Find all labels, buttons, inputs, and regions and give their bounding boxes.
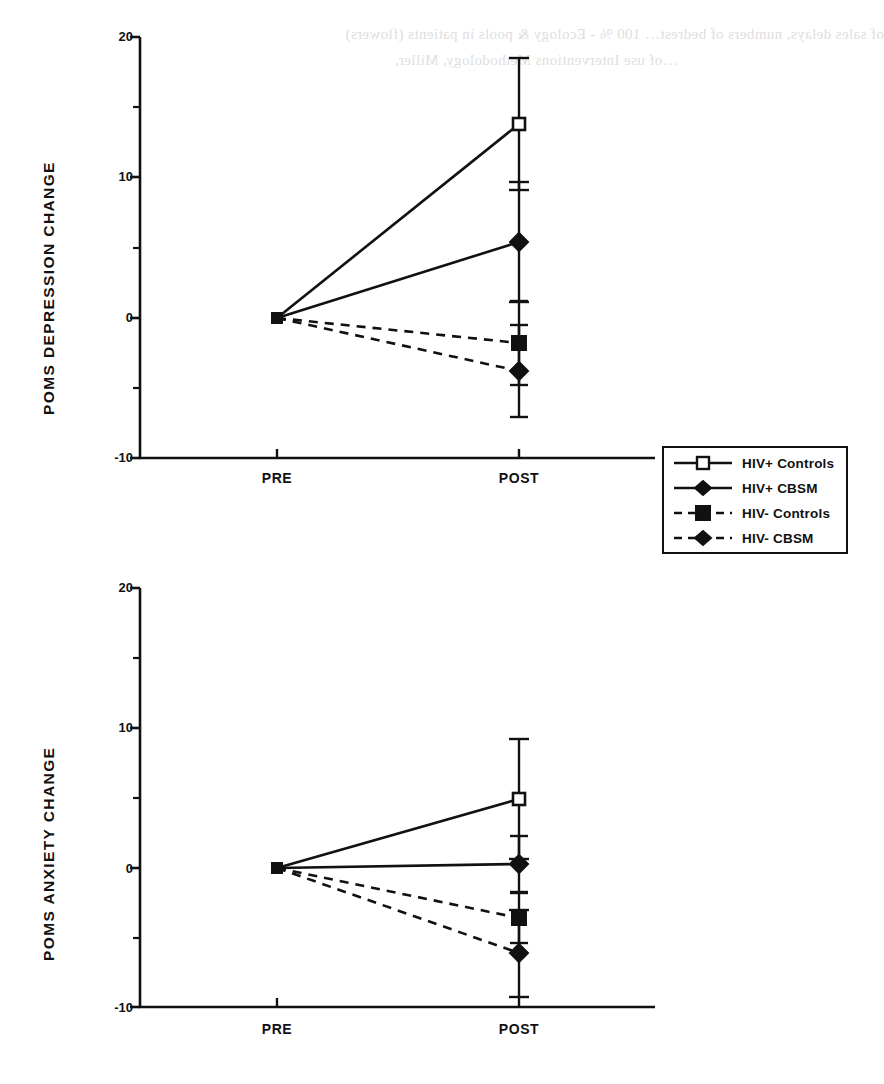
axis-lines-depression xyxy=(140,37,655,458)
legend-label-hiv-plus-cbsm: HIV+ CBSM xyxy=(742,481,818,496)
chart-panel-depression: POMS DEPRESSION CHANGE 20 10 0 -10 PRE P… xyxy=(0,0,700,520)
marker-pre-anxiety xyxy=(272,863,282,873)
legend-key-filled-square-dashed xyxy=(672,504,734,522)
legend-entry-hiv-minus-cbsm[interactable]: HIV- CBSM xyxy=(672,527,814,549)
series-line-anxiety-hiv-plus-controls xyxy=(277,799,519,868)
chart-panel-anxiety: POMS ANXIETY CHANGE 20 10 0 -10 PRE POST xyxy=(0,551,700,1084)
series-line-hiv-plus-controls xyxy=(277,124,519,318)
legend-entry-hiv-minus-controls[interactable]: HIV- Controls xyxy=(672,502,830,524)
marker-hiv-minus-controls-post-depression xyxy=(512,336,526,350)
x-ticks-depression xyxy=(277,449,519,458)
series-line-hiv-minus-controls xyxy=(277,318,519,343)
legend-label-hiv-minus-cbsm: HIV- CBSM xyxy=(742,531,814,546)
axis-lines-anxiety xyxy=(140,588,655,1007)
legend-key-filled-diamond-dashed xyxy=(672,529,734,547)
marker-hiv-minus-controls-post-anxiety xyxy=(512,911,526,925)
legend-entry-hiv-plus-cbsm[interactable]: HIV+ CBSM xyxy=(672,477,818,499)
series-line-hiv-minus-cbsm xyxy=(277,318,519,371)
marker-hiv-plus-cbsm-post-depression xyxy=(510,233,528,251)
marker-hiv-minus-cbsm-post-anxiety xyxy=(510,944,528,962)
plot-area-anxiety xyxy=(0,551,700,1084)
legend-label-hiv-minus-controls: HIV- Controls xyxy=(742,506,830,521)
plot-area-depression xyxy=(0,0,700,520)
legend-label-hiv-plus-controls: HIV+ Controls xyxy=(742,456,834,471)
marker-hiv-plus-controls-post-depression xyxy=(513,118,525,130)
series-line-hiv-plus-cbsm xyxy=(277,242,519,318)
legend-entry-hiv-plus-controls[interactable]: HIV+ Controls xyxy=(672,452,834,474)
series-line-anxiety-hiv-plus-cbsm xyxy=(277,864,519,868)
marker-hiv-minus-cbsm-post-depression xyxy=(510,362,528,380)
marker-hiv-plus-cbsm-post-anxiety xyxy=(510,855,528,873)
legend-key-open-square xyxy=(672,454,734,472)
legend-key-filled-diamond-solid xyxy=(672,479,734,497)
x-ticks-anxiety xyxy=(277,998,519,1007)
marker-pre-depression xyxy=(272,313,282,323)
legend-box: HIV+ Controls HIV+ CBSM HIV- Controls xyxy=(662,446,848,554)
marker-hiv-plus-controls-post-anxiety xyxy=(513,793,525,805)
